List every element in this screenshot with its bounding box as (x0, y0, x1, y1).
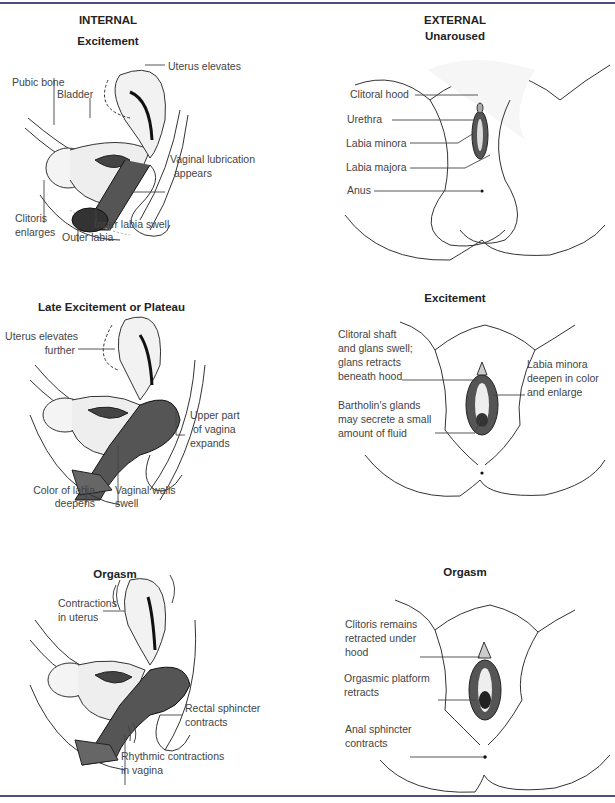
label-retracts: retracts (344, 686, 379, 699)
label-inner-labia-swell: Inner labia swell (94, 218, 169, 231)
label-uterus-elevates-further: Uterus elevates (3, 330, 78, 343)
label-deepens: deepens (20, 497, 95, 510)
label-may-secrete: may secrete a small (338, 413, 431, 426)
internal-excitement-illustration (0, 30, 310, 280)
label-clitoral-shaft: Clitoral shaft (338, 328, 396, 341)
label-color-of-labia: Color of labia (20, 484, 95, 497)
label-uterus-elevates: Uterus elevates (168, 60, 241, 73)
label-clitoris: Clitoris (15, 212, 47, 225)
label-contractions: Contractions (58, 597, 117, 610)
label-outer-labia: Outer labia (62, 231, 113, 244)
label-bladder: Bladder (57, 88, 93, 101)
label-retracted-under: retracted under (345, 632, 416, 645)
label-of-vagina: of vagina (193, 423, 236, 436)
label-rectal-sphincter: Rectal sphincter (185, 702, 260, 715)
label-rectal-contracts: contracts (185, 716, 228, 729)
label-orgasmic-platform: Orgasmic platform (344, 672, 430, 685)
label-expands: expands (190, 437, 230, 450)
label-appears: appears (174, 167, 212, 180)
label-upper-part: Upper part (190, 409, 240, 422)
label-bartholins-glands: Bartholin's glands (338, 399, 421, 412)
label-labia-minora-deepen: Labia minora (527, 358, 588, 371)
label-urethra: Urethra (347, 113, 382, 126)
label-amount-of-fluid: amount of fluid (338, 427, 407, 440)
label-further: further (3, 344, 75, 357)
label-deepen-in-color: deepen in color (527, 372, 599, 385)
label-anus: Anus (347, 184, 371, 197)
label-and-glans-swell: and glans swell; (338, 342, 413, 355)
top-border-rule (0, 2, 615, 4)
external-orgasm-illustration (310, 570, 615, 800)
label-vaginal-lubrication: Vaginal lubrication (170, 153, 255, 166)
label-glans-retracts: glans retracts (338, 356, 401, 369)
column-header-internal: INTERNAL (73, 14, 143, 26)
label-rhythmic-contractions: Rhythmic contractions (121, 750, 224, 763)
label-hood: hood (345, 646, 368, 659)
label-in-vagina: in vagina (121, 764, 163, 777)
label-anal-sphincter: Anal sphincter (345, 723, 412, 736)
label-swell: swell (115, 497, 138, 510)
label-clitoris-remains: Clitoris remains (345, 618, 417, 631)
external-unaroused-illustration (310, 30, 615, 270)
label-beneath-hood: beneath hood (338, 370, 402, 383)
label-and-enlarge: and enlarge (527, 386, 582, 399)
label-in-uterus: in uterus (58, 611, 98, 624)
label-pubic-bone: Pubic bone (12, 76, 65, 89)
label-vaginal-walls: Vaginal walls (115, 484, 176, 497)
column-header-external: EXTERNAL (410, 14, 500, 26)
label-labia-majora: Labia majora (346, 161, 407, 174)
label-enlarges: enlarges (15, 226, 55, 239)
label-anal-contracts: contracts (345, 737, 388, 750)
label-labia-minora: Labia minora (346, 137, 407, 150)
label-clitoral-hood: Clitoral hood (350, 88, 409, 101)
